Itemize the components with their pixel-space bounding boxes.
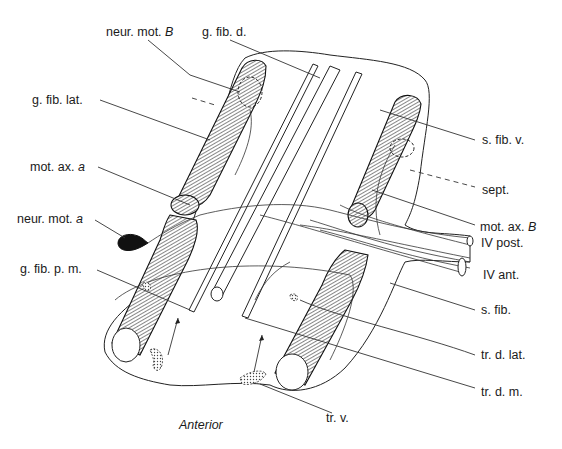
- label-text: neur. mot.: [17, 212, 76, 226]
- tract-dorsal-lateral-left: [150, 349, 163, 371]
- label-text: neur. mot.: [106, 25, 165, 39]
- label-suffix: B: [528, 220, 536, 234]
- leader-s-fib: [390, 283, 475, 310]
- label-text: mot. ax.: [480, 220, 528, 234]
- nerve-IV-ant-end: [458, 258, 466, 276]
- label-tr-v: tr. v.: [326, 411, 349, 425]
- label-IV-ant: IV ant.: [483, 268, 519, 282]
- right-fiber-cap: [276, 354, 308, 390]
- right-giant-fiber-upper: [350, 95, 421, 218]
- tract-ventral: [240, 371, 266, 384]
- label-s-fib-v: s. fib. v.: [482, 133, 524, 147]
- label-sept: sept.: [482, 183, 509, 197]
- leader-neur-mot-B: [148, 40, 240, 92]
- left-fiber-cap: [112, 328, 140, 362]
- diagram-drawing: [0, 0, 562, 449]
- leader-g-fib-lat: [100, 100, 210, 140]
- leader-mot-ax-B: [372, 190, 475, 225]
- sept-dash-left: [192, 98, 215, 105]
- label-mot-ax-a: mot. ax. a: [30, 160, 85, 174]
- label-suffix: a: [78, 160, 85, 174]
- leader-mot-ax-a: [98, 167, 190, 205]
- nerve-bundle-line: [310, 220, 470, 262]
- label-anterior: Anterior: [179, 418, 223, 432]
- label-IV-post: IV post.: [481, 236, 523, 250]
- label-g-fib-d: g. fib. d.: [202, 25, 246, 39]
- label-g-fib-p-m: g. fib. p. m.: [20, 262, 82, 276]
- tract-small-2: [290, 294, 298, 301]
- label-suffix: a: [76, 212, 83, 226]
- median-fiber-2-cap: [211, 287, 223, 301]
- nerve-bundle-line: [300, 225, 470, 258]
- anatomical-diagram: neur. mot. B g. fib. d. g. fib. lat. s. …: [0, 0, 562, 449]
- label-neur-mot-B: neur. mot. B: [106, 25, 173, 39]
- left-fiber-swelling: [171, 195, 199, 215]
- label-neur-mot-a: neur. mot. a: [17, 212, 83, 226]
- label-tr-d-m: tr. d. m.: [481, 385, 523, 399]
- label-mot-ax-B: mot. ax. B: [480, 220, 536, 234]
- leader-neur-mot-a: [95, 220, 125, 238]
- label-g-fib-lat: g. fib. lat.: [32, 93, 83, 107]
- nerve-IV-post-end: [467, 236, 473, 246]
- label-text: mot. ax.: [30, 160, 78, 174]
- label-s-fib: s. fib.: [481, 303, 511, 317]
- label-suffix: B: [165, 25, 173, 39]
- label-tr-d-lat: tr. d. lat.: [481, 348, 525, 362]
